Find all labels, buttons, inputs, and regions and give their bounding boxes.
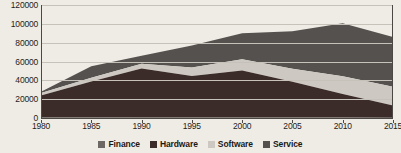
legend-label: Software bbox=[218, 140, 253, 149]
grid-line bbox=[41, 62, 393, 63]
y-axis-line bbox=[41, 5, 42, 119]
legend-label: Finance bbox=[108, 140, 139, 149]
stacked-area-chart: 020000400006000080000100000120000 198019… bbox=[0, 0, 401, 153]
legend-swatch-icon bbox=[263, 141, 270, 148]
y-axis-tick-label: 80000 bbox=[0, 39, 38, 47]
legend-item-finance[interactable]: Finance bbox=[98, 140, 139, 149]
x-axis: 19801985199019952000200520102015 bbox=[41, 120, 393, 134]
x-axis-tick-label: 2000 bbox=[233, 122, 251, 131]
plot-area bbox=[41, 5, 393, 118]
x-axis-tick-label: 2005 bbox=[283, 122, 301, 131]
x-axis-tick-label: 1995 bbox=[183, 122, 201, 131]
y-axis-tick-label: 100000 bbox=[0, 20, 38, 28]
legend-swatch-icon bbox=[98, 141, 105, 148]
x-axis-tick-label: 1990 bbox=[133, 122, 151, 131]
plot-right-border bbox=[392, 5, 393, 119]
grid-line bbox=[41, 99, 393, 100]
x-axis-tick-label: 2010 bbox=[334, 122, 352, 131]
x-axis-tick-label: 1980 bbox=[32, 122, 50, 131]
axis-baseline bbox=[41, 118, 393, 119]
grid-line bbox=[41, 43, 393, 44]
chart-legend: FinanceHardwareSoftwareService bbox=[0, 136, 401, 153]
y-axis-tick-label: 20000 bbox=[0, 95, 38, 103]
legend-swatch-icon bbox=[208, 141, 215, 148]
legend-item-software[interactable]: Software bbox=[208, 140, 253, 149]
y-axis: 020000400006000080000100000120000 bbox=[0, 5, 38, 118]
y-axis-tick-label: 40000 bbox=[0, 76, 38, 84]
y-axis-tick-label: 120000 bbox=[0, 1, 38, 9]
legend-item-hardware[interactable]: Hardware bbox=[150, 140, 198, 149]
x-axis-tick-label: 1985 bbox=[82, 122, 100, 131]
grid-line bbox=[41, 5, 393, 6]
legend-swatch-icon bbox=[150, 141, 157, 148]
y-axis-tick-label: 60000 bbox=[0, 58, 38, 66]
legend-item-service[interactable]: Service bbox=[263, 140, 303, 149]
grid-line bbox=[41, 24, 393, 25]
legend-label: Hardware bbox=[160, 140, 198, 149]
x-axis-tick-label: 2015 bbox=[384, 122, 401, 131]
legend-label: Service bbox=[273, 140, 303, 149]
grid-line bbox=[41, 80, 393, 81]
